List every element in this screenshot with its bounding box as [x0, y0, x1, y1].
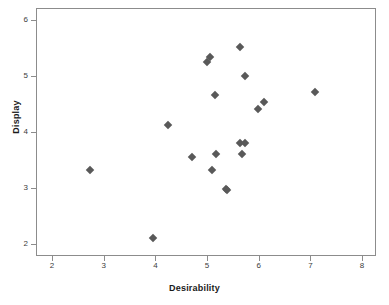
x-tick-label: 4	[145, 262, 165, 270]
y-axis-title: Display	[11, 87, 21, 147]
x-tick-mark	[362, 256, 363, 261]
plot-area	[36, 8, 376, 256]
x-tick-label: 2	[42, 262, 62, 270]
x-tick-mark	[155, 256, 156, 261]
y-tick-label: 6	[8, 16, 28, 24]
x-tick-label: 7	[300, 262, 320, 270]
x-axis-title: Desirability	[0, 283, 389, 293]
scatter-chart: 23456 2345678 Display Desirability	[0, 0, 389, 305]
x-tick-mark	[310, 256, 311, 261]
x-tick-mark	[207, 256, 208, 261]
x-tick-label: 8	[352, 262, 372, 270]
x-tick-mark	[52, 256, 53, 261]
y-tick-label: 3	[8, 184, 28, 192]
y-tick-label: 2	[8, 240, 28, 248]
y-tick-label: 5	[8, 72, 28, 80]
x-tick-label: 6	[249, 262, 269, 270]
x-tick-mark	[259, 256, 260, 261]
x-tick-label: 5	[197, 262, 217, 270]
x-tick-mark	[104, 256, 105, 261]
x-tick-label: 3	[94, 262, 114, 270]
